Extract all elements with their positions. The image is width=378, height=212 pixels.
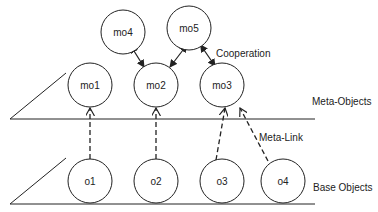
meta-object-mo3: mo3 — [200, 63, 244, 107]
node-label: mo3 — [212, 80, 232, 91]
base-object-o2: o2 — [134, 159, 178, 203]
base-object-o3: o3 — [200, 159, 244, 203]
meta-object-mo4: mo4 — [101, 10, 145, 54]
cooperation-arrows — [134, 50, 215, 67]
node-label: mo5 — [179, 23, 199, 34]
node-label: mo2 — [146, 80, 166, 91]
meta-object-diagram: mo1 mo2 mo3 mo4 mo5 o1 o2 o3 o4 Cooperat… — [0, 0, 378, 212]
meta-link-label: Meta-Link — [259, 132, 304, 143]
base-objects-layer-label: Base Objects — [313, 182, 372, 193]
base-object-o4: o4 — [261, 159, 305, 203]
node-label: mo4 — [113, 27, 133, 38]
base-object-o1: o1 — [68, 159, 112, 203]
meta-object-mo1: mo1 — [68, 63, 112, 107]
meta-object-mo2: mo2 — [134, 63, 178, 107]
node-label: o1 — [84, 176, 96, 187]
node-label: o2 — [150, 176, 162, 187]
cooperation-label: Cooperation — [216, 48, 270, 59]
node-label: o3 — [216, 176, 228, 187]
node-label: o4 — [277, 176, 289, 187]
meta-objects-layer-label: Meta-Objects — [312, 96, 371, 107]
node-label: mo1 — [80, 80, 100, 91]
meta-links — [90, 108, 268, 161]
meta-object-mo5: mo5 — [167, 6, 211, 50]
